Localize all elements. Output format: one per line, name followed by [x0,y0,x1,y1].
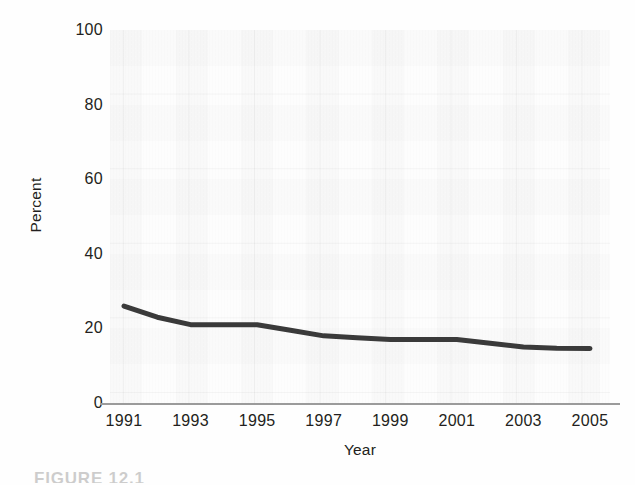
y-axis-tick-label: 0 [57,394,103,412]
x-axis-tick-label: 1997 [289,412,359,430]
x-axis-line [100,403,620,405]
x-axis-tick-label: 2005 [555,412,625,430]
data-series-line [110,30,610,403]
x-axis-tick-label: 1993 [156,412,226,430]
x-axis-tick-label: 1999 [355,412,425,430]
figure-root: Percent 100806040200 1991199319951997199… [0,0,635,485]
y-axis-title: Percent [27,145,45,265]
figure-caption: FIGURE 12.1 [34,469,145,483]
x-axis-tick-labels: 19911993199519971999200120032005 [0,412,635,438]
y-axis-tick-label: 100 [57,21,103,39]
x-axis-tick-label: 2003 [488,412,558,430]
x-axis-tick-label: 1991 [89,412,159,430]
y-axis-tick-label: 20 [57,319,103,337]
y-axis-tick-label: 80 [57,96,103,114]
y-axis-tick-label: 60 [57,170,103,188]
x-axis-tick-label: 1995 [222,412,292,430]
x-axis-title: Year [110,441,610,459]
y-axis-tick-label: 40 [57,245,103,263]
plot-area [110,30,610,403]
x-axis-tick-label: 2001 [422,412,492,430]
